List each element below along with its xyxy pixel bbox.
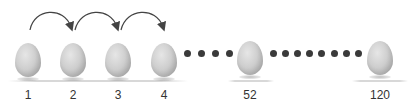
egg-4	[151, 43, 177, 77]
ground-shadow-right	[352, 80, 408, 82]
arrow-3-to-4	[121, 12, 163, 30]
egg-1	[15, 43, 41, 77]
ellipsis-dot	[306, 50, 313, 57]
egg-label-4: 4	[144, 88, 184, 102]
ellipsis-dot	[331, 50, 338, 57]
arrow-1-to-2	[30, 12, 71, 30]
ellipsis-dot	[226, 50, 233, 57]
egg-label-120: 120	[360, 88, 400, 102]
ellipsis-dot	[355, 50, 362, 57]
egg-label-3: 3	[98, 88, 138, 102]
egg-2	[60, 43, 86, 77]
egg-52	[237, 41, 263, 75]
arrow-2-to-3	[75, 12, 117, 30]
ellipsis-dot	[184, 50, 191, 57]
ellipsis-dot	[270, 50, 277, 57]
ellipsis-dot	[212, 50, 219, 57]
egg-label-1: 1	[8, 88, 48, 102]
ellipsis-dot	[294, 50, 301, 57]
egg-label-52: 52	[230, 88, 270, 102]
ellipsis-dot	[343, 50, 350, 57]
egg-120	[367, 41, 393, 75]
ellipsis-dot	[282, 50, 289, 57]
ellipsis-dot	[198, 50, 205, 57]
ellipsis-dot	[318, 50, 325, 57]
ground-shadow-middle	[228, 80, 274, 82]
egg-label-2: 2	[53, 88, 93, 102]
egg-3	[105, 43, 131, 77]
